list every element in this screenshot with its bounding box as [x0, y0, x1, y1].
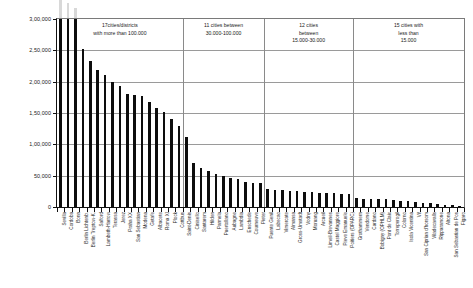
- x-axis-tick-label: Bobigny (OPHLM): [381, 212, 386, 249]
- x-axis-tick-label: Berlin Lichtenb.: [85, 212, 90, 244]
- x-axis-tick-label: Jerez: [122, 212, 127, 223]
- x-axis-tick-label: Altona: [447, 212, 452, 225]
- annotation-line: 17cities/districts: [60, 22, 180, 30]
- annotation-label: 17cities/districtswith more than 100.000: [60, 22, 180, 37]
- x-axis-tick-label: Colorno: [403, 212, 408, 228]
- x-axis-tick-label: Figaro: [462, 212, 467, 225]
- x-axis-tick-label: Modena: [144, 212, 149, 229]
- x-axis-tick-label: Courneuve: [255, 212, 260, 234]
- x-axis-tick-label: Grothammern: [359, 212, 364, 240]
- x-axis-tick-label: Hilden: [211, 212, 216, 225]
- y-axis-tick-label: 50,000: [0, 173, 51, 179]
- x-axis-tick-label: Praha XX: [129, 212, 134, 232]
- annotation-line: with more than 100.000: [60, 30, 180, 38]
- bar-overflow-stub: [67, 3, 70, 19]
- x-axis-tick-label: Terassa: [114, 212, 119, 228]
- y-axis-tick-label: 1,50,000: [0, 110, 51, 116]
- x-axis-tick-label: Parmela: [218, 212, 223, 229]
- x-axis-tick-label: Puertollano: [225, 212, 230, 235]
- x-axis-tick-label: Lambeth-Harrow: [107, 212, 112, 246]
- x-axis-tick-label: San Sebastian de Pos: [455, 212, 460, 257]
- x-axis-tick-label: Enschede: [248, 212, 253, 232]
- x-axis-tick-label: Getafe: [151, 212, 156, 226]
- x-axis-tick-label: Viladecavalls: [433, 212, 438, 239]
- x-axis-tick-label: Torreperogil: [396, 212, 401, 236]
- x-axis-tick-label: Aubagne: [233, 212, 238, 230]
- x-axis-tick-label: Labecao: [277, 212, 282, 230]
- x-axis-tick-label: Albacete: [159, 212, 164, 230]
- x-axis-tick-label: Almansa: [292, 212, 297, 230]
- x-axis-tick-label: Vif: [418, 212, 423, 217]
- x-axis-tick-label: Poitiers (OPARC): [351, 212, 356, 248]
- y-axis-tick-label: 3,00,000: [0, 16, 51, 22]
- plot-frame: [56, 18, 465, 208]
- y-axis-tick-label: 2,50,000: [0, 47, 51, 53]
- x-axis-tick-label: Cardano: [373, 212, 378, 230]
- x-axis-tick-label: San Sebastian: [137, 212, 142, 242]
- bar-chart: 050,0001,00,0001,50,0002,00,0002,50,0003…: [0, 0, 473, 288]
- x-axis-tick-label: Cinisello: [196, 212, 201, 229]
- x-axis-tick-label: Limeil-Brevannes: [329, 212, 334, 248]
- bar-overflow-stub: [59, 0, 62, 19]
- y-axis-tick-label: 2,00,000: [0, 79, 51, 85]
- x-axis-tick-label: Bonn: [77, 212, 82, 223]
- x-axis-tick-label: San Ciprian d'horsom: [425, 212, 430, 256]
- x-axis-tick-label: Puente Genil: [270, 212, 275, 239]
- annotation-label: 15 cities withless than15.000: [349, 22, 469, 45]
- x-axis-tick-label: Castel Maggiore: [336, 212, 341, 245]
- x-axis-tick-label: Cordoba: [70, 212, 75, 230]
- x-axis-tick-label: Vendome: [366, 212, 371, 231]
- x-axis-tick-label: Vodny: [307, 212, 312, 225]
- x-axis-tick-label: Salford: [100, 212, 105, 227]
- annotation-line: 15.000: [349, 37, 469, 45]
- x-axis-tick-label: Saint-Denis: [188, 212, 193, 236]
- x-axis-tick-label: Plock: [174, 212, 179, 223]
- annotation-line: less than: [349, 30, 469, 38]
- x-axis-tick-label: Sevilla: [63, 212, 68, 226]
- x-axis-tick-label: Moruang: [314, 212, 319, 230]
- x-axis-tick-label: Pieve Emanuele: [344, 212, 349, 245]
- x-axis-tick-label: Gross-Umstadt: [299, 212, 304, 243]
- annotation-line: 15 cities with: [349, 22, 469, 30]
- x-axis-tick-label: Lambdia: [240, 212, 245, 230]
- x-axis-labels: SevillaCordobaBonnBerlin Lichtenb.Berlin…: [57, 212, 464, 288]
- x-axis-tick-label: Cottbus: [181, 212, 186, 228]
- x-axis-tick-label: Isola Vicentina: [410, 212, 415, 242]
- x-axis-tick-label: Berlin Treptow-K.: [92, 212, 97, 247]
- x-axis-tick-label: Pieter: [262, 212, 267, 224]
- y-axis-tick-label: 0: [0, 204, 51, 210]
- plot-area: [56, 18, 465, 208]
- x-axis-tick-label: Pont de Claix: [388, 212, 393, 239]
- y-axis-tick-label: 1,00,000: [0, 141, 51, 147]
- x-axis-tick-label: Santarem: [203, 212, 208, 232]
- x-axis-tick-label: Vimercate: [285, 212, 290, 233]
- x-axis-tick-label: Roma XI: [166, 212, 171, 230]
- x-axis-tick-label: Ripparamone: [440, 212, 445, 240]
- x-axis-tick-label: Arcueil: [322, 212, 327, 226]
